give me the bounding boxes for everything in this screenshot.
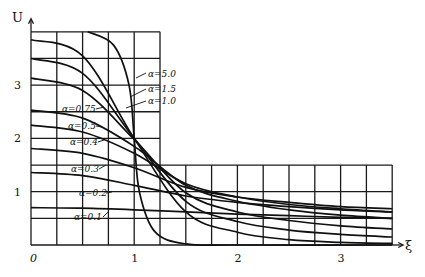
curve-label: α=1.5 — [148, 84, 176, 94]
y-tick-label: 1 — [14, 186, 21, 199]
x-tick-label: 3 — [338, 252, 345, 265]
origin-label: 0 — [30, 252, 37, 265]
y-tick-label: 3 — [14, 79, 21, 92]
curve-label: α=0.2 — [79, 188, 107, 198]
label-leader-line — [98, 140, 104, 142]
label-leader-line — [126, 101, 146, 108]
y-axis-title: U — [12, 10, 23, 25]
x-tick-label: 1 — [131, 252, 138, 265]
curve-label: α=1.0 — [148, 96, 176, 106]
curve-label: α=0.5 — [68, 121, 96, 131]
chart-svg: α=5.0α=1.5α=1.0α=0.75α=0.5α=0.4α=0.3α=0.… — [0, 0, 425, 277]
curve-label: α=0.75 — [62, 104, 96, 114]
x-tick-label: 2 — [234, 252, 241, 265]
label-leader-line — [103, 212, 108, 217]
curve-label: α=0.1 — [74, 212, 102, 222]
label-leader-line — [96, 107, 104, 109]
label-leader-line — [136, 73, 146, 78]
label-leader-line — [130, 89, 146, 97]
curve-label: α=0.4 — [70, 137, 98, 147]
curve-label: α=0.3 — [71, 164, 99, 174]
curve-label: α=5.0 — [148, 69, 176, 79]
x-axis-title: ξ — [405, 238, 412, 253]
chart-container: α=5.0α=1.5α=1.0α=0.75α=0.5α=0.4α=0.3α=0.… — [0, 0, 425, 277]
y-tick-label: 2 — [14, 132, 21, 145]
